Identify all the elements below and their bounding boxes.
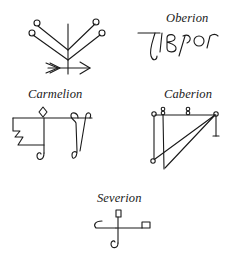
branching-tree-arrow-sigil-icon <box>0 0 115 90</box>
carmelion-sigil-icon <box>0 85 115 170</box>
severion-sigil-icon <box>50 165 180 255</box>
oberion-script-sigil-icon <box>115 0 229 90</box>
caberion-sigil-icon <box>115 85 229 170</box>
